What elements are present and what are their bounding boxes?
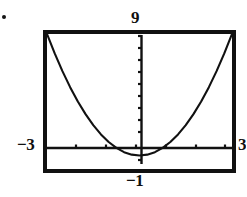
- window-label-xmax: 3: [238, 136, 246, 153]
- bullet-icon: [2, 15, 6, 19]
- calculator-viewing-window: [43, 30, 236, 173]
- plot-canvas: [47, 34, 232, 169]
- parabola-figure: 9 −3 −1 3: [0, 0, 247, 197]
- window-label-ymin: −1: [126, 172, 143, 189]
- window-label-ymax: 9: [131, 9, 139, 26]
- window-label-xmin: −3: [17, 136, 34, 153]
- parabola-curve: [47, 34, 232, 156]
